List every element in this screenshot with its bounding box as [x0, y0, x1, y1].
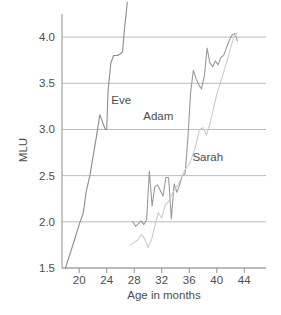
x-axis-tick-label: 28 [128, 274, 141, 286]
series-line-adam [133, 33, 238, 226]
x-axis-tick-label: 36 [183, 274, 196, 286]
y-axis-title: MLU [17, 138, 29, 162]
series-label-adam: Adam [143, 110, 173, 122]
x-axis-title: Age in months [127, 289, 201, 301]
x-axis-tick-labels: 20242832364044 [73, 274, 251, 286]
x-axis-tick-label: 24 [100, 274, 113, 286]
series-line-eve [65, 2, 127, 268]
y-axis-tick-label: 4.0 [39, 31, 55, 43]
y-axis-tick-label: 1.5 [39, 262, 55, 274]
x-axis-tick-label: 44 [238, 274, 251, 286]
mlu-age-line-chart: 20242832364044 1.52.02.53.03.54.0 EveAda… [0, 0, 281, 315]
series-label-eve: Eve [111, 94, 131, 106]
series-inline-labels: EveAdamSarah [111, 94, 223, 163]
y-axis-tick-label: 3.5 [39, 77, 55, 89]
grid-lines [62, 37, 266, 268]
series-paths [65, 2, 237, 268]
x-axis-tick-label: 40 [210, 274, 223, 286]
y-axis-tick-label: 3.0 [39, 123, 55, 135]
x-axis-tick-label: 20 [73, 274, 86, 286]
y-axis-tick-labels: 1.52.02.53.03.54.0 [39, 31, 55, 274]
chart-canvas: 20242832364044 1.52.02.53.03.54.0 EveAda… [0, 0, 281, 315]
y-axis-tick-label: 2.0 [39, 216, 55, 228]
series-label-sarah: Sarah [192, 151, 223, 163]
x-axis-ticks [79, 268, 244, 273]
axis-lines [62, 14, 266, 268]
x-axis-tick-label: 32 [155, 274, 168, 286]
y-axis-tick-label: 2.5 [39, 170, 55, 182]
